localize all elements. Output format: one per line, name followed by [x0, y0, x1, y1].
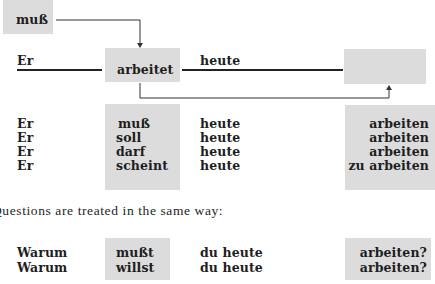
adverb-cell: heute	[200, 144, 240, 159]
table-row: Warum willst du heute arbeiten?	[0, 260, 435, 275]
subject-underline	[17, 69, 102, 71]
adverb-cell: heute	[200, 116, 240, 131]
modal-cell: willst	[116, 260, 154, 275]
rest-cell: du heute	[200, 245, 263, 260]
adverb-cell: heute	[200, 158, 240, 173]
main-subject: Er	[17, 53, 33, 68]
interrogative-cell: Warum	[17, 260, 67, 275]
modal-cell: darf	[116, 144, 145, 159]
subject-cell: Er	[17, 130, 33, 145]
subject-cell: Er	[17, 158, 33, 173]
infinitive-cell: arbeiten	[369, 130, 429, 145]
modal-cell: soll	[116, 130, 141, 145]
modal-cell: scheint	[116, 158, 168, 173]
table-row: Er soll heute arbeiten	[0, 130, 435, 145]
prose-text: Questions are treated in the same way:	[0, 203, 223, 219]
infinitive-cell: arbeiten?	[360, 245, 427, 260]
rest-cell: du heute	[200, 260, 263, 275]
infinitive-cell: arbeiten	[369, 144, 429, 159]
table-row: Er scheint heute zu arbeiten	[0, 158, 435, 173]
table-row: Warum mußt du heute arbeiten?	[0, 245, 435, 260]
adverb-underline	[182, 69, 343, 71]
adverb-cell: heute	[200, 130, 240, 145]
table-row: Er muß heute arbeiten	[0, 116, 435, 131]
modal-cell: muß	[118, 116, 150, 131]
main-adverb: heute	[200, 53, 240, 68]
interrogative-cell: Warum	[17, 245, 67, 260]
modal-cell: mußt	[116, 245, 154, 260]
subject-cell: Er	[17, 144, 33, 159]
subject-cell: Er	[17, 116, 33, 131]
infinitive-cell: arbeiten?	[360, 260, 427, 275]
infinitive-cell: arbeiten	[369, 116, 429, 131]
table-row: Er darf heute arbeiten	[0, 144, 435, 159]
empty-slot-box	[344, 49, 426, 84]
main-verb: arbeitet	[117, 62, 173, 77]
infinitive-cell: zu arbeiten	[348, 158, 429, 173]
